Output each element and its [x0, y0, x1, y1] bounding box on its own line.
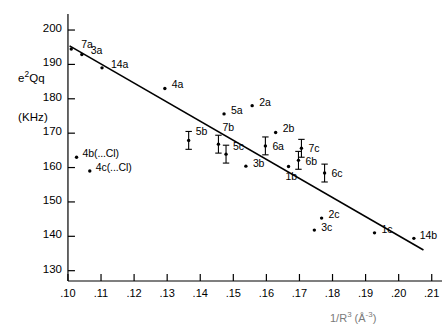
data-point-label: 1b [286, 170, 297, 182]
data-point [75, 156, 78, 159]
y-axis-tick-label: 140 [22, 228, 62, 240]
data-point [217, 142, 220, 145]
data-point-label: 1c [382, 223, 393, 235]
y-axis-tick-label: 160 [22, 160, 62, 172]
y-axis-tick-label: 200 [22, 22, 62, 34]
data-point [264, 144, 267, 147]
data-point-label: 6c [332, 167, 343, 179]
data-point-label: 3c [321, 221, 332, 233]
data-point [297, 159, 300, 162]
data-point [187, 139, 190, 142]
y-axis-label: e2Qq [18, 72, 45, 84]
data-point-label: 3b [253, 157, 264, 169]
data-point [70, 47, 73, 50]
data-point [222, 112, 225, 115]
data-point [274, 131, 277, 134]
data-point [244, 164, 247, 167]
data-point [100, 66, 103, 69]
chart-figure: 130140150160170180190200.10.11.12.13.14.… [0, 0, 446, 331]
y-axis-tick-label: 130 [22, 263, 62, 275]
data-point-label: 4a [172, 78, 183, 90]
data-point-label: 2b [283, 122, 294, 134]
data-point-label: 4b(...Cl) [83, 147, 119, 159]
data-point [224, 152, 227, 155]
data-point [323, 171, 326, 174]
data-point-label: 5c [233, 140, 244, 152]
trend-line [70, 46, 424, 250]
data-point-label: 5a [231, 104, 242, 116]
data-point-label: 7b [222, 121, 233, 133]
y-axis-tick-label: 170 [22, 125, 62, 137]
data-point [373, 231, 376, 234]
x-axis-tick-label: .21 [412, 287, 446, 299]
data-point-label: 2a [259, 96, 270, 108]
data-point-label: 4c(...Cl) [96, 161, 132, 173]
data-point-label: 5b [196, 125, 207, 137]
data-point [287, 165, 290, 168]
data-point-label: 14b [420, 229, 437, 241]
data-point-label: 6b [305, 155, 316, 167]
x-axis-label: 1/R3 (Å-3) [330, 312, 376, 324]
data-point [163, 87, 166, 90]
data-point-label: 6a [272, 140, 283, 152]
data-point [88, 169, 91, 172]
y-axis-tick-label: 190 [22, 56, 62, 68]
data-point [250, 104, 253, 107]
y-axis-tick-label: 150 [22, 194, 62, 206]
data-point [300, 147, 303, 150]
data-point [313, 228, 316, 231]
data-point-label: 14a [111, 58, 128, 70]
data-point [320, 216, 323, 219]
y-axis-units-label: (KHz) [18, 111, 48, 123]
y-axis-tick-label: 180 [22, 91, 62, 103]
plot-area: 130140150160170180190200.10.11.12.13.14.… [0, 0, 446, 331]
data-point-label: 3a [91, 44, 102, 56]
chart-canvas [0, 0, 446, 331]
data-point [80, 53, 83, 56]
data-point-label: 7c [308, 142, 319, 154]
data-point [412, 237, 415, 240]
data-point-label: 2c [329, 208, 340, 220]
